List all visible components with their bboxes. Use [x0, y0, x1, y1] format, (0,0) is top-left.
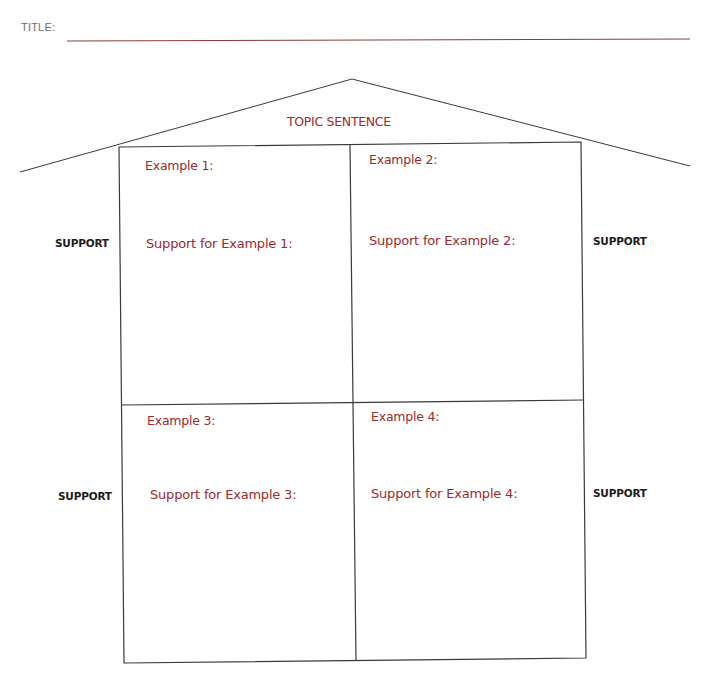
example-3-label: Example 3:: [147, 413, 215, 428]
example-4-label: Example 4:: [371, 409, 439, 424]
title-label: TITLE:: [21, 21, 55, 33]
example-1-label: Example 1:: [145, 158, 213, 173]
support-example-2-label: Support for Example 2:: [369, 233, 515, 248]
support-label-left-bottom: SUPPORT: [58, 490, 112, 502]
topic-sentence-area[interactable]: [135, 100, 575, 140]
support-example-4-label: Support for Example 4:: [371, 486, 517, 501]
example-4-box[interactable]: Example 4: Support for Example 4:: [356, 402, 584, 656]
support-label-right-top: SUPPORT: [593, 235, 647, 247]
support-example-1-label: Support for Example 1:: [146, 236, 292, 251]
example-2-label: Example 2:: [369, 152, 437, 167]
support-label-left-top: SUPPORT: [55, 237, 109, 249]
example-3-box[interactable]: Example 3: Support for Example 3:: [123, 407, 353, 661]
example-2-box[interactable]: Example 2: Support for Example 2:: [352, 145, 580, 399]
support-label-right-bottom: SUPPORT: [593, 487, 647, 499]
support-example-3-label: Support for Example 3:: [150, 487, 296, 502]
example-1-box[interactable]: Example 1: Support for Example 1:: [121, 149, 349, 403]
title-input[interactable]: [70, 22, 685, 40]
